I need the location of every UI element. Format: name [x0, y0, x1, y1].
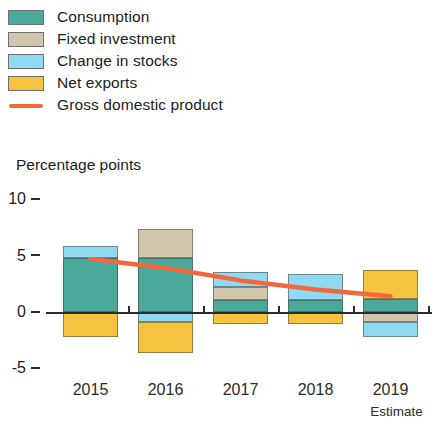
plot-area: 1050-520152016201720182019Estimate	[0, 0, 436, 422]
bar-group-2019	[363, 0, 418, 422]
bar-group-2015	[63, 0, 118, 422]
y-axis-tick-label: 10	[8, 190, 26, 207]
bar-segment-2015-net-exports	[63, 312, 118, 337]
x-axis-label-2018: 2018	[298, 381, 334, 399]
bar-segment-2017-fixed-investment	[213, 287, 268, 300]
bar-segment-2016-consumption	[138, 258, 193, 312]
x-axis-tick-mark	[203, 306, 205, 312]
x-axis-label-2016: 2016	[148, 381, 184, 399]
x-axis-label-2019: 2019	[373, 381, 409, 399]
bar-group-2018	[288, 0, 343, 422]
x-axis-tick-mark	[428, 306, 430, 312]
y-axis-tick-10: 10	[0, 190, 40, 208]
bar-segment-2019-consumption	[363, 299, 418, 312]
y-axis-tick-dash	[31, 198, 40, 200]
bar-segment-2017-consumption	[213, 300, 268, 312]
estimate-footnote: Estimate	[370, 404, 423, 419]
y-axis-tick-neg5: -5	[0, 359, 40, 377]
bar-segment-2015-change-in-stocks	[63, 246, 118, 259]
bar-segment-2017-change-in-stocks	[213, 272, 268, 287]
y-axis-tick-label: 0	[17, 303, 26, 320]
zero-axis-line	[46, 312, 432, 314]
y-axis-tick-5: 5	[0, 247, 40, 265]
y-axis-tick-dash	[31, 311, 40, 313]
y-axis-tick-label: 5	[17, 247, 26, 264]
bar-group-2016	[138, 0, 193, 422]
y-axis-tick-0: 0	[0, 303, 40, 321]
y-axis-tick-label: -5	[12, 359, 26, 376]
bar-group-2017	[213, 0, 268, 422]
bar-segment-2019-net-exports	[363, 270, 418, 299]
bar-segment-2018-change-in-stocks	[288, 274, 343, 300]
x-axis-tick-mark	[128, 306, 130, 312]
y-axis-tick-dash	[31, 367, 40, 369]
x-axis-tick-mark	[353, 306, 355, 312]
x-axis-label-2017: 2017	[223, 381, 259, 399]
x-axis-label-2015: 2015	[73, 381, 109, 399]
x-axis-tick-mark	[278, 306, 280, 312]
bar-segment-2016-net-exports	[138, 322, 193, 354]
y-axis-tick-dash	[31, 254, 40, 256]
bar-segment-2018-consumption	[288, 300, 343, 312]
bar-segment-2019-change-in-stocks	[363, 322, 418, 337]
chart-figure: Consumption Fixed investment Change in s…	[0, 0, 436, 422]
bar-segment-2016-fixed-investment	[138, 229, 193, 259]
bar-segment-2015-consumption	[63, 258, 118, 312]
